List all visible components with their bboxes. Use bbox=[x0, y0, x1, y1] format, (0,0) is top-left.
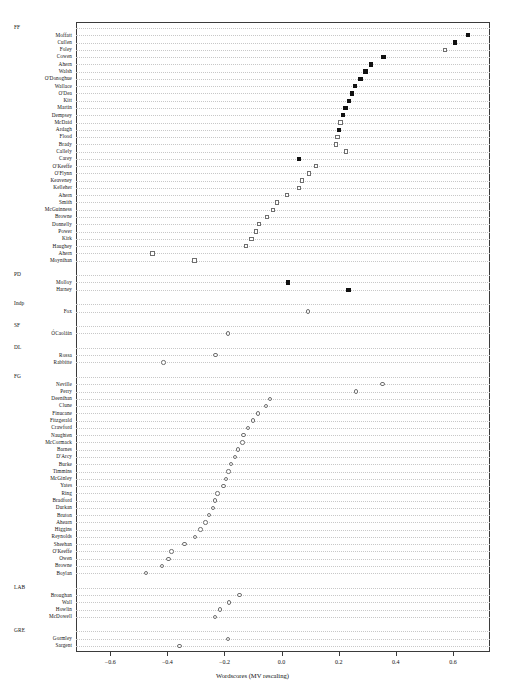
grid-line bbox=[76, 646, 490, 647]
row-label: Wall bbox=[0, 600, 72, 605]
x-tick-label: −0.2 bbox=[204, 659, 244, 665]
data-point bbox=[251, 418, 255, 422]
grid-line bbox=[76, 35, 490, 36]
row-label: Sheehan bbox=[0, 542, 72, 547]
row-label: Rabbitte bbox=[0, 360, 72, 365]
data-point bbox=[254, 229, 258, 233]
row-label: Kelleher bbox=[0, 185, 72, 190]
group-label-lab: LAB bbox=[14, 585, 25, 590]
grid-line bbox=[76, 86, 490, 87]
data-point bbox=[192, 258, 196, 262]
grid-line bbox=[76, 123, 490, 124]
grid-line bbox=[76, 464, 490, 465]
row-label: McGuinness bbox=[0, 207, 72, 212]
grid-line bbox=[76, 639, 490, 640]
data-point bbox=[256, 411, 260, 415]
x-tick bbox=[224, 652, 225, 656]
row-label: Bruton bbox=[0, 513, 72, 518]
row-label: Power bbox=[0, 229, 72, 234]
data-point bbox=[213, 498, 217, 502]
row-label: Ahearn bbox=[0, 520, 72, 525]
row-label: Reynolds bbox=[0, 534, 72, 539]
grid-line bbox=[76, 559, 490, 560]
grid-line bbox=[76, 566, 490, 567]
data-point bbox=[198, 527, 202, 531]
data-point bbox=[347, 99, 351, 103]
row-label: Kirk bbox=[0, 236, 72, 241]
data-point bbox=[350, 91, 354, 95]
x-tick-label: −0.6 bbox=[90, 659, 130, 665]
row-label: Carey bbox=[0, 156, 72, 161]
grid-line bbox=[76, 384, 490, 385]
data-point bbox=[227, 600, 231, 604]
data-point bbox=[226, 469, 230, 473]
grid-line bbox=[76, 537, 490, 538]
row-label: Wallace bbox=[0, 84, 72, 89]
grid-line bbox=[76, 181, 490, 182]
row-label: McDowell bbox=[0, 614, 72, 619]
row-label: O'Keeffe bbox=[0, 164, 72, 169]
grid-line bbox=[76, 144, 490, 145]
grid-line bbox=[76, 573, 490, 574]
data-point bbox=[271, 208, 275, 212]
data-point bbox=[307, 171, 311, 175]
wordscores-dot-plot: FFMoffattCullenFoleyCowenAhernWalshO'Don… bbox=[0, 0, 505, 688]
grid-line bbox=[76, 239, 490, 240]
grid-line bbox=[76, 472, 490, 473]
grid-line bbox=[76, 202, 490, 203]
plot-area bbox=[76, 22, 490, 652]
grid-line bbox=[76, 246, 490, 247]
group-label-ff: FF bbox=[14, 25, 20, 30]
data-point bbox=[221, 484, 225, 488]
grid-line bbox=[76, 166, 490, 167]
grid-line bbox=[76, 333, 490, 334]
grid-line bbox=[76, 479, 490, 480]
group-label-pd: PD bbox=[14, 272, 21, 277]
x-tick bbox=[167, 652, 168, 656]
data-point bbox=[285, 193, 289, 197]
x-tick-label: 0.2 bbox=[319, 659, 359, 665]
row-label: Moynihan bbox=[0, 258, 72, 263]
grid-line bbox=[76, 406, 490, 407]
row-label: McDaid bbox=[0, 120, 72, 125]
grid-line bbox=[76, 551, 490, 552]
row-label: Foley bbox=[0, 47, 72, 52]
row-label: Crawford bbox=[0, 425, 72, 430]
grid-line bbox=[76, 28, 490, 29]
row-label: Broughan bbox=[0, 593, 72, 598]
grid-line bbox=[76, 435, 490, 436]
grid-line bbox=[76, 399, 490, 400]
x-tick-label: 0.0 bbox=[262, 659, 302, 665]
grid-line bbox=[76, 413, 490, 414]
x-tick bbox=[453, 652, 454, 656]
grid-line bbox=[76, 50, 490, 51]
row-label: O'Dea bbox=[0, 91, 72, 96]
data-point bbox=[257, 222, 261, 226]
grid-line bbox=[76, 115, 490, 116]
data-point bbox=[240, 440, 244, 444]
row-label: Fox bbox=[0, 309, 72, 314]
data-point bbox=[358, 77, 362, 81]
grid-line bbox=[76, 392, 490, 393]
data-point bbox=[161, 360, 165, 364]
row-label: Higgins bbox=[0, 527, 72, 532]
x-tick-label: 0.4 bbox=[376, 659, 416, 665]
x-tick bbox=[396, 652, 397, 656]
row-label: Ahern bbox=[0, 62, 72, 67]
row-label: Bradford bbox=[0, 498, 72, 503]
data-point bbox=[286, 280, 290, 284]
data-point bbox=[203, 520, 207, 524]
row-label: O'Flynn bbox=[0, 171, 72, 176]
data-point bbox=[306, 309, 310, 313]
data-point bbox=[193, 535, 197, 539]
grid-line bbox=[76, 377, 490, 378]
row-label: Burke bbox=[0, 462, 72, 467]
data-point bbox=[466, 33, 470, 37]
grid-line bbox=[76, 544, 490, 545]
row-label: Ring bbox=[0, 491, 72, 496]
row-label: Cowen bbox=[0, 54, 72, 59]
grid-line bbox=[76, 152, 490, 153]
row-label: ÓCaoláin bbox=[0, 331, 72, 336]
data-point bbox=[335, 135, 339, 139]
grid-line bbox=[76, 304, 490, 305]
